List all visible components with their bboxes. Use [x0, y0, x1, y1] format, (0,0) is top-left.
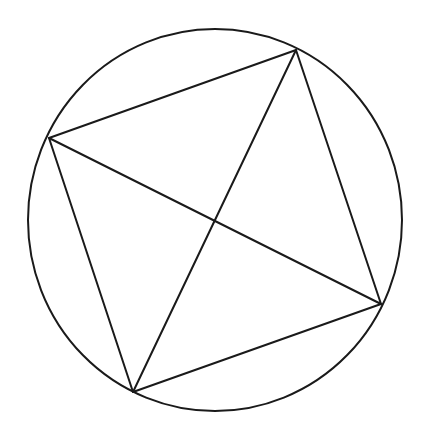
- cyclic-quadrilateral-diagram: [0, 0, 425, 436]
- diagonal-left-right: [49, 138, 381, 304]
